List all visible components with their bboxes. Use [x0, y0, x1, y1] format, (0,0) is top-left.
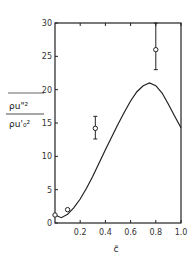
y-tick-label: 0	[47, 219, 52, 228]
plot-frame	[55, 23, 181, 223]
x-tick-label: 0.4	[99, 228, 112, 237]
chart: 051015202530 0.20.40.60.81.0 ρu"² ρu'₀² …	[0, 0, 192, 266]
y-tick-label: 5	[47, 186, 52, 195]
data-point	[53, 213, 57, 217]
y-tick-label: 25	[42, 52, 52, 61]
y-axis-label: ρu"² ρu'₀²	[6, 93, 44, 129]
data-point	[65, 207, 69, 211]
x-axis-label: c̃	[114, 244, 119, 254]
x-axis: 0.20.40.60.81.0	[74, 23, 188, 237]
x-tick-label: 0.2	[74, 228, 87, 237]
x-tick-label: 0.8	[149, 228, 162, 237]
model-curve	[55, 83, 181, 218]
y-tick-label: 30	[42, 19, 52, 28]
x-tick-label: 1.0	[175, 228, 188, 237]
x-tick-label: 0.6	[124, 228, 137, 237]
y-tick-label: 10	[42, 152, 52, 161]
y-tick-label: 15	[42, 119, 52, 128]
data-point	[93, 126, 97, 130]
plot-series	[53, 23, 181, 218]
y-label-numerator: ρu"²	[9, 101, 29, 111]
data-point	[154, 47, 158, 51]
y-label-denominator: ρu'₀²	[9, 119, 30, 129]
